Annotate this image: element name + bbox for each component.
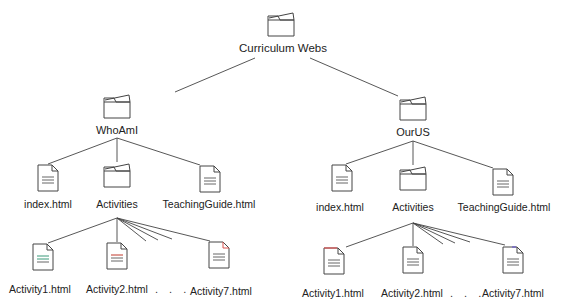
file-label: Activity2.html [86, 283, 148, 295]
file-label: Activity1.html [302, 287, 364, 299]
document-icon [106, 242, 128, 270]
file-label: index.html [24, 198, 72, 210]
document-icon [208, 241, 230, 269]
file-label: Activity2.html [381, 287, 443, 299]
branch-label-whoami: WhoAmI [96, 124, 138, 136]
document-icon [331, 164, 353, 192]
root-label: Curriculum Webs [239, 42, 327, 54]
ellipsis: . . . [450, 287, 485, 299]
branch-label-ourus: OurUS [396, 126, 430, 138]
file-label: index.html [316, 201, 364, 213]
document-icon [37, 164, 59, 192]
folder-label-activities: Activities [96, 198, 137, 210]
folder-icon [102, 162, 132, 190]
document-icon [323, 247, 345, 275]
folder-icon [398, 95, 428, 123]
file-label: Activity7.html [190, 285, 252, 297]
file-label: Activity7.html [482, 287, 544, 299]
document-icon [402, 246, 424, 274]
file-label: TeachingGuide.html [458, 201, 551, 213]
file-label: Activity1.html [9, 283, 71, 295]
folder-icon [398, 165, 428, 193]
ellipsis: . . . [155, 283, 190, 295]
file-label: TeachingGuide.html [163, 198, 256, 210]
folder-label-activities: Activities [392, 201, 433, 213]
folder-icon [102, 93, 132, 121]
folder-icon [266, 11, 296, 39]
document-icon [32, 243, 54, 271]
document-icon [492, 168, 514, 196]
document-icon [199, 165, 221, 193]
document-icon [502, 246, 524, 274]
